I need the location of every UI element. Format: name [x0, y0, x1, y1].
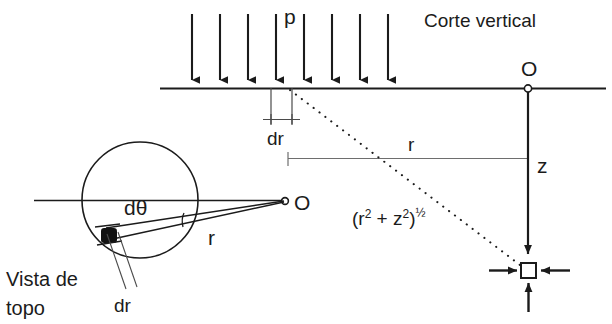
caption-top-view-line1: Vista de [6, 268, 78, 290]
origin-marker-vertical [524, 85, 531, 92]
origin-label-topview: O [294, 191, 310, 214]
dr-dimension-bar [263, 114, 300, 125]
soil-stress-diagram: p dr r O z (r2 + z2)½ [0, 0, 612, 324]
origin-label-vertical: O [521, 57, 537, 80]
formula-open: (r [352, 208, 365, 229]
formula-exponent: ½ [416, 206, 426, 220]
caption-top-view-line2: topo [6, 297, 45, 319]
slant-distance-formula: (r2 + z2)½ [352, 206, 426, 229]
dr-witness-lines [271, 88, 292, 124]
dr-label-topview: dr [114, 295, 132, 316]
r-label-topview: r [208, 226, 215, 249]
stress-point-element [521, 263, 536, 278]
slant-distance-dotted-line [290, 90, 524, 268]
r-label-vertical: r [408, 134, 415, 155]
dtheta-label: dθ [124, 196, 147, 219]
load-label-p: p [284, 5, 296, 28]
dr-label-vertical: dr [267, 128, 285, 149]
diagram-canvas: p dr r O z (r2 + z2)½ [0, 0, 612, 324]
dtheta-arc-tick [182, 213, 184, 227]
formula-plus: + z [371, 208, 402, 229]
depth-label-z: z [537, 154, 548, 177]
title-vertical-section: Corte vertical [424, 10, 536, 31]
